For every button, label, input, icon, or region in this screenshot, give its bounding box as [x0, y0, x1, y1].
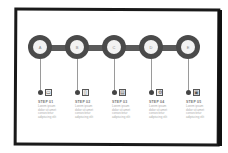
step-marker-dot: [38, 90, 43, 95]
step-marker-dot: [186, 90, 191, 95]
step-node: B: [65, 35, 89, 59]
step-connector: [40, 59, 41, 90]
document-icon: ▯: [82, 89, 89, 96]
step-node: E: [176, 35, 200, 59]
step-node: A: [28, 35, 52, 59]
step-node-label: C: [107, 40, 121, 54]
step-description: Lorem ipsum dolor sit amet consectetur a…: [75, 105, 97, 119]
step-description: Lorem ipsum dolor sit amet consectetur a…: [112, 105, 134, 119]
step-connector: [151, 59, 152, 90]
step-connector: [114, 59, 115, 90]
step-marker-dot: [149, 90, 154, 95]
step-connector: [77, 59, 78, 90]
frame-shadow: [218, 10, 222, 146]
step-node-label: B: [70, 40, 84, 54]
step-description: Lorem ipsum dolor sit amet consectetur a…: [38, 105, 60, 119]
save-icon: ▣: [193, 89, 200, 96]
step-description: Lorem ipsum dolor sit amet consectetur a…: [186, 105, 208, 119]
hand-drawn-frame: [14, 7, 221, 146]
step-node-label: A: [33, 40, 47, 54]
step-node-label: D: [144, 40, 158, 54]
step-node-label: E: [181, 40, 195, 54]
step-description: Lorem ipsum dolor sit amet consectetur a…: [149, 105, 171, 119]
step-connector: [188, 59, 189, 90]
step-node: D: [139, 35, 163, 59]
step-node: C: [102, 35, 126, 59]
battery-icon: ▭: [45, 89, 52, 96]
step-marker-dot: [75, 90, 80, 95]
file-icon: ▤: [119, 89, 126, 96]
settings-icon: ⚙: [156, 89, 163, 96]
step-marker-dot: [112, 90, 117, 95]
